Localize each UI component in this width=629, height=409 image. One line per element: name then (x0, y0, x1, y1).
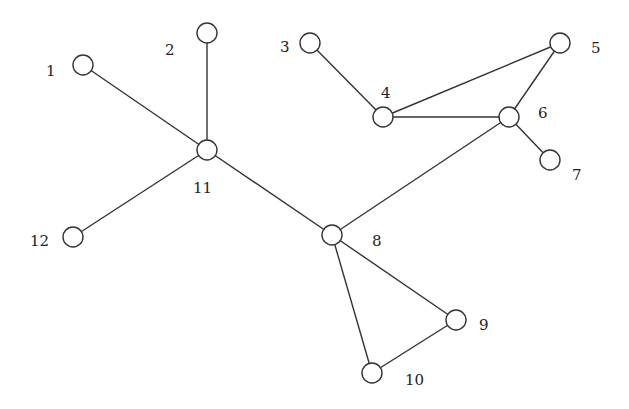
node-label-8: 8 (372, 232, 382, 250)
graph-diagram: 123456789101112 (0, 0, 629, 409)
edge-8-9 (332, 235, 456, 320)
edge-1-11 (83, 65, 207, 150)
node-11 (197, 140, 217, 160)
node-12 (63, 227, 83, 247)
edge-3-4 (310, 43, 383, 117)
edge-12-11 (73, 150, 207, 237)
node-label-7: 7 (572, 166, 582, 184)
node-label-3: 3 (280, 38, 290, 56)
edge-11-8 (207, 150, 332, 235)
node-label-4: 4 (381, 84, 391, 102)
edge-9-10 (372, 320, 456, 373)
node-9 (446, 310, 466, 330)
label-layer: 123456789101112 (30, 38, 601, 389)
node-layer (63, 23, 570, 383)
edge-8-10 (332, 235, 372, 373)
node-10 (362, 363, 382, 383)
edge-6-8 (332, 117, 509, 235)
node-label-11: 11 (193, 179, 212, 197)
node-8 (322, 225, 342, 245)
node-2 (197, 23, 217, 43)
node-6 (499, 107, 519, 127)
node-label-2: 2 (165, 41, 175, 59)
node-1 (73, 55, 93, 75)
edge-4-5 (383, 43, 560, 117)
node-3 (300, 33, 320, 53)
node-label-5: 5 (591, 39, 601, 57)
node-5 (550, 33, 570, 53)
node-label-10: 10 (405, 371, 424, 389)
node-label-1: 1 (46, 62, 56, 80)
node-label-12: 12 (30, 232, 49, 250)
node-7 (540, 150, 560, 170)
node-label-6: 6 (538, 104, 548, 122)
node-4 (373, 107, 393, 127)
node-label-9: 9 (479, 316, 489, 334)
